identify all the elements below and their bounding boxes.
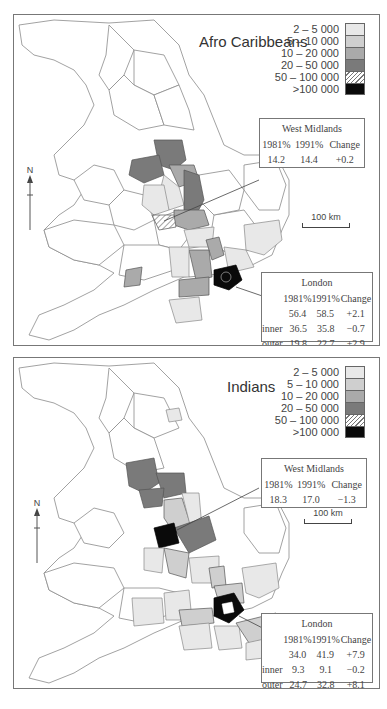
swatch-5-10k: [345, 35, 365, 47]
north-arrow: N: [31, 498, 43, 565]
legend-item: 50 – 100 000: [275, 71, 365, 83]
stats-value-row: 18.317.0−1.3: [262, 492, 366, 507]
map-title: Indians: [227, 378, 275, 395]
swatch-5-10k: [345, 378, 365, 390]
legend-item: 10 – 20 000: [275, 47, 365, 59]
legend-item: >100 000: [275, 83, 365, 95]
stats-row-outer: outer24.732.8+8.1: [262, 677, 372, 689]
swatch-20-50k: [345, 402, 365, 414]
swatch-10-20k: [345, 47, 365, 59]
legend-item: 2 – 5 000: [275, 23, 365, 35]
london-title: London: [262, 614, 372, 632]
legend-item: 10 – 20 000: [275, 390, 365, 402]
west-midlands-stats: West Midlands 1981%1991%Change 18.317.0−…: [261, 458, 367, 508]
indians-map-panel: Indians 2 – 5 000 5 – 10 000 10 – 20 000…: [13, 357, 380, 689]
stats-header-row: 1981%1991%Change: [260, 137, 364, 152]
west-midlands-title: West Midlands: [260, 119, 364, 137]
london-stats: London 1981%1991%Change 56.458.5+2.1 inn…: [261, 272, 373, 342]
greater-london-region: [214, 265, 242, 290]
legend-item: 2 – 5 000: [275, 366, 365, 378]
stats-value-row: 14.214.4+0.2: [260, 152, 364, 167]
swatch-50-100k: [345, 71, 365, 83]
stats-header-row: 1981%1991%Change: [262, 477, 366, 492]
scale-bar: 100 km: [304, 508, 352, 524]
swatch-100k-plus: [345, 426, 365, 438]
stats-header-row: 1981%1991%Change: [262, 632, 372, 647]
swatch-100k-plus: [345, 83, 365, 95]
scale-bar: 100 km: [302, 212, 350, 228]
north-arrow: N: [24, 165, 36, 232]
swatch-2-5k: [345, 23, 365, 35]
stats-row-outer: outer19.822.7+2.9: [262, 336, 372, 346]
legend-item: 50 – 100 000: [275, 414, 365, 426]
west-midlands-stats: West Midlands 1981%1991%Change 14.214.4+…: [259, 118, 365, 168]
stats-header-row: 1981%1991%Change: [262, 291, 372, 306]
swatch-2-5k: [345, 366, 365, 378]
london-stats: London 1981%1991%Change 34.041.9+7.9 inn…: [261, 613, 373, 683]
stats-row-total: 34.041.9+7.9: [262, 647, 372, 662]
legend-item: 5 – 10 000: [275, 35, 365, 47]
north-arrow-icon: [24, 175, 36, 230]
legend: 2 – 5 000 5 – 10 000 10 – 20 000 20 – 50…: [275, 23, 365, 95]
north-arrow-icon: [31, 508, 43, 563]
london-title: London: [262, 273, 372, 291]
west-midlands-region: [154, 523, 179, 548]
legend-item: 20 – 50 000: [275, 59, 365, 71]
swatch-10-20k: [345, 390, 365, 402]
legend: 2 – 5 000 5 – 10 000 10 – 20 000 20 – 50…: [275, 366, 365, 438]
west-midlands-title: West Midlands: [262, 459, 366, 477]
stats-row-total: 56.458.5+2.1: [262, 306, 372, 321]
legend-item: >100 000: [275, 426, 365, 438]
swatch-20-50k: [345, 59, 365, 71]
legend-item: 20 – 50 000: [275, 402, 365, 414]
afro-caribbeans-map-panel: Afro Caribbeans 2 – 5 000 5 – 10 000 10 …: [13, 14, 380, 346]
legend-item: 5 – 10 000: [275, 378, 365, 390]
stats-row-inner: inner9.39.1−0.2: [262, 662, 372, 677]
swatch-50-100k: [345, 414, 365, 426]
stats-row-inner: inner36.535.8−0.7: [262, 321, 372, 336]
